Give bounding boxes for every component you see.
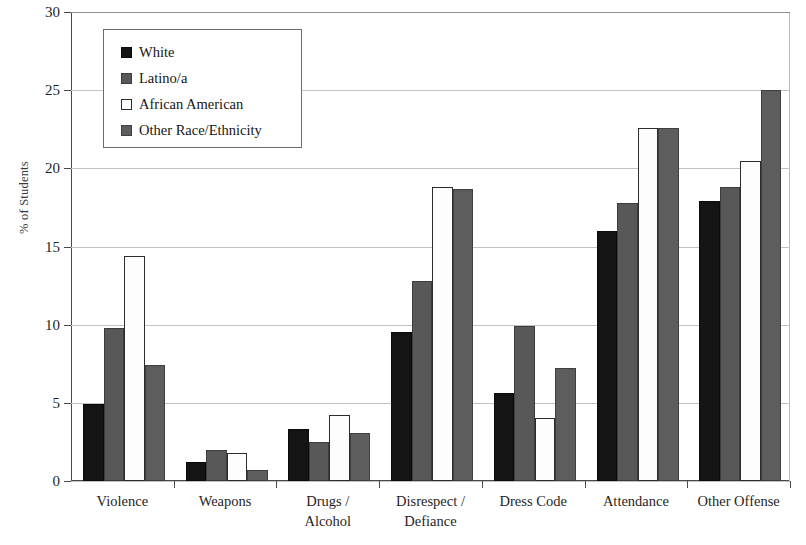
y-tick-mark xyxy=(64,325,71,326)
x-axis-category-label: Drugs /Alcohol xyxy=(276,491,379,531)
bar xyxy=(145,365,166,481)
x-tick-mark xyxy=(482,481,483,488)
legend-item: Other Race/Ethnicity xyxy=(121,117,301,143)
y-tick-label: 25 xyxy=(45,82,60,99)
y-axis-title: % of Students xyxy=(17,128,32,268)
bar xyxy=(514,326,535,481)
bar xyxy=(309,442,330,481)
bar xyxy=(83,404,104,481)
bar xyxy=(432,187,453,481)
bar xyxy=(638,128,659,481)
x-axis-category-label: Attendance xyxy=(585,491,688,511)
x-tick-mark xyxy=(790,481,791,488)
x-axis-category-label: Disrespect /Defiance xyxy=(379,491,482,531)
x-tick-mark xyxy=(585,481,586,488)
y-gridline xyxy=(71,247,790,248)
x-tick-mark xyxy=(687,481,688,488)
bar xyxy=(412,281,433,481)
y-gridline xyxy=(71,12,790,13)
y-tick-mark xyxy=(64,90,71,91)
bar xyxy=(740,161,761,481)
bar xyxy=(535,418,556,481)
legend-item-label: Latino/a xyxy=(139,70,187,87)
bar xyxy=(104,328,125,481)
bar xyxy=(329,415,350,481)
x-tick-mark xyxy=(276,481,277,488)
bar xyxy=(350,433,371,481)
bar xyxy=(288,429,309,481)
chart-legend: WhiteLatino/aAfrican AmericanOther Race/… xyxy=(103,29,302,148)
bar xyxy=(658,128,679,481)
bar xyxy=(206,450,227,481)
x-axis-category-label: Violence xyxy=(71,491,174,511)
legend-swatch-icon xyxy=(121,99,132,110)
bar xyxy=(494,393,515,481)
legend-swatch-icon xyxy=(121,73,132,84)
legend-item-label: African American xyxy=(139,96,243,113)
y-tick-mark xyxy=(64,481,71,482)
x-axis-category-label: Weapons xyxy=(174,491,277,511)
bar xyxy=(186,462,207,481)
legend-item: White xyxy=(121,39,301,65)
y-tick-mark xyxy=(64,247,71,248)
y-tick-label: 10 xyxy=(45,316,60,333)
y-gridline xyxy=(71,168,790,169)
legend-item-label: Other Race/Ethnicity xyxy=(139,122,262,139)
y-tick-label: 15 xyxy=(45,238,60,255)
bar xyxy=(227,453,248,481)
legend-item-label: White xyxy=(139,44,174,61)
x-axis-category-label: Other Offense xyxy=(687,491,790,511)
legend-item: African American xyxy=(121,91,301,117)
bar xyxy=(453,189,474,481)
bar xyxy=(247,470,268,481)
bar xyxy=(699,201,720,481)
y-tick-label: 30 xyxy=(45,4,60,21)
x-axis-category-label: Dress Code xyxy=(482,491,585,511)
legend-item: Latino/a xyxy=(121,65,301,91)
bar xyxy=(617,203,638,481)
bar xyxy=(720,187,741,481)
bar xyxy=(597,231,618,481)
y-tick-label: 20 xyxy=(45,160,60,177)
bar xyxy=(761,90,782,481)
bar xyxy=(555,368,576,481)
y-tick-label: 5 xyxy=(53,394,61,411)
x-tick-mark xyxy=(174,481,175,488)
bar xyxy=(391,332,412,481)
bar-chart: % of Students 051015202530 WhiteLatino/a… xyxy=(0,0,806,545)
x-tick-mark xyxy=(379,481,380,488)
legend-swatch-icon xyxy=(121,47,132,58)
y-tick-mark xyxy=(64,403,71,404)
y-tick-label: 0 xyxy=(53,473,61,490)
legend-swatch-icon xyxy=(121,125,132,136)
y-tick-mark xyxy=(64,12,71,13)
y-gridline xyxy=(71,481,790,482)
y-tick-mark xyxy=(64,168,71,169)
bar xyxy=(124,256,145,481)
